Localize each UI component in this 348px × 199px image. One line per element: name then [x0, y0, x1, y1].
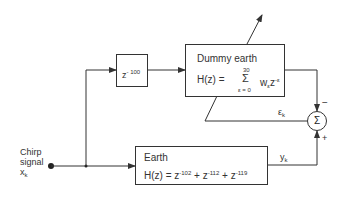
- dummy-earth-term: wεz-ε: [260, 75, 280, 91]
- dummy-earth-block: Dummy earth H(z) = 30 Σ ε = 0 wεz-ε: [185, 44, 285, 97]
- error-feedback-wire: [205, 96, 307, 121]
- branch-to-delay-wire: [86, 70, 116, 166]
- adaptation-arrow: [247, 15, 262, 44]
- input-label: Chirp signal xk: [20, 147, 44, 180]
- error-signal-label: εk: [278, 107, 285, 120]
- output-signal-label: yk: [280, 152, 288, 165]
- sum-lower-limit: ε = 0: [238, 85, 251, 95]
- dummy-earth-lhs: H(z) =: [197, 75, 225, 85]
- input-label-line2: signal: [20, 157, 44, 167]
- dummy-earth-title: Dummy earth: [197, 54, 257, 64]
- dummy-to-summer-wire: [284, 70, 317, 111]
- minus-sign: −: [322, 98, 328, 108]
- plus-sign: +: [322, 133, 327, 143]
- earth-block: Earth H(z) = z-102 + z-112 + z-119: [135, 146, 268, 185]
- delay-block: z- 100: [116, 54, 148, 87]
- summing-junction: Σ: [307, 111, 327, 131]
- summer-sigma: Σ: [314, 115, 320, 126]
- input-label-line1: Chirp: [20, 147, 44, 157]
- earth-title: Earth: [144, 153, 168, 163]
- input-symbol: xk: [20, 167, 44, 180]
- earth-to-summer-wire: [267, 131, 317, 165]
- earth-transfer-function: H(z) = z-102 + z-112 + z-119: [144, 168, 247, 181]
- delay-expression: z- 100: [122, 67, 140, 80]
- sigma-symbol: Σ: [242, 73, 249, 83]
